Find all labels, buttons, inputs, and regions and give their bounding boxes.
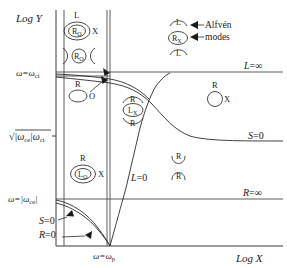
icon6-bottom-label: L — [176, 49, 181, 58]
icon4-top-label: R — [130, 95, 136, 104]
icon6-center-label: RX — [172, 34, 182, 44]
text-layer: Log Y Log X ω=ωci √|ωce|ωci ω=|ωce| ω=ωp… — [0, 0, 287, 268]
boundary-label-L-infinity: L=∞ — [243, 60, 262, 71]
icon3-top-label: R — [75, 79, 81, 89]
boundary-label-R-zero-left: R=0 — [38, 229, 56, 240]
icon-R-X-circle-labels: R X — [212, 80, 230, 104]
icon8-bottom-label: R — [176, 172, 182, 181]
icon3-right-label: O — [89, 91, 95, 101]
icon-R-arcs-lower-right-labels: R R — [176, 152, 182, 181]
icon1-right-label: X — [92, 26, 98, 36]
annotation-alfven: Alfvén — [205, 20, 232, 30]
icon4-bottom-label: R — [130, 119, 136, 128]
icon4-center-label: LX — [128, 106, 138, 116]
icon-LO-ellipse-labels: R LO X — [78, 153, 104, 180]
boundary-label-R-infinity: R=∞ — [242, 187, 262, 198]
icon2-center-label: RO — [74, 52, 84, 62]
icon7-right-label: X — [224, 94, 230, 104]
icon7-top-label: R — [212, 80, 218, 90]
icon-RO-ellipse-top-left-labels: L RO X — [72, 10, 98, 37]
icon1-center-label: RO — [72, 27, 82, 37]
icon5-top-label: R — [80, 153, 86, 163]
boundary-label-S-zero-left: S=0 — [39, 215, 55, 226]
icon8-top-label: R — [176, 152, 182, 161]
boundary-label-S-zero-right: S=0 — [248, 130, 264, 141]
y-tick-label-sqrt: √|ωce|ωci — [9, 130, 51, 143]
y-axis-label: Log Y — [15, 12, 44, 24]
icon-RO-cones-labels: RO — [74, 52, 84, 62]
y-tick-label-omega-ci: ω=ωci — [16, 68, 40, 79]
x-axis-label: Log X — [235, 252, 264, 264]
icon1-top-label: L — [74, 10, 79, 20]
x-tick-label-omega-p: ω=ωp — [93, 251, 115, 262]
cma-diagram: Log Y Log X ω=ωci √|ωce|ωci ω=|ωce| ω=ωp… — [0, 0, 287, 268]
icon5-right-label: X — [98, 169, 104, 179]
y-tick-label-omega-ce: ω=|ωce| — [8, 194, 38, 205]
icon-RX-alfven-labels: L RX L — [172, 18, 182, 58]
boundary-label-L-zero: L=0 — [130, 172, 147, 183]
svg-text:√|ωce|ωci: √|ωce|ωci — [9, 131, 45, 143]
icon5-center-label: LO — [78, 170, 88, 180]
annotation-modes: modes — [205, 32, 230, 42]
icon-R-O-oval-labels: R O — [75, 79, 95, 101]
icon6-top-label: L — [176, 18, 181, 27]
icon-LX-with-R-arcs-labels: R LX R — [128, 95, 138, 128]
